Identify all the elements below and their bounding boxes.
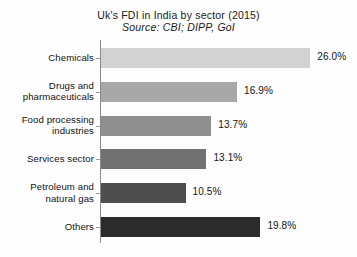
bar-value-label: 19.8%: [267, 220, 296, 231]
bar-row: Petroleum andnatural gas10.5%: [0, 177, 357, 211]
bar-row: Others19.8%: [0, 211, 357, 245]
category-label: Drugs andpharmaceuticals: [0, 80, 94, 103]
category-label-line: natural gas: [0, 193, 94, 204]
chart-title: Uk's FDI in India by sector (2015): [0, 9, 357, 21]
category-label-line: Petroleum and: [0, 181, 94, 192]
category-label: Services sector: [0, 153, 94, 164]
category-label: Chemicals: [0, 52, 94, 63]
bar-row: Services sector13.1%: [0, 143, 357, 177]
category-label-line: pharmaceuticals: [0, 91, 94, 102]
category-label-line: Drugs and: [0, 80, 94, 91]
category-label-line: industries: [0, 125, 94, 136]
category-label-line: Chemicals: [0, 52, 94, 63]
bar: [101, 116, 211, 136]
bar-row: Food processingindustries13.7%: [0, 110, 357, 144]
bar: [101, 217, 260, 237]
axis-tick-mark: [96, 58, 100, 59]
bar-value-label: 26.0%: [317, 51, 346, 62]
category-label: Others: [0, 221, 94, 232]
category-label-line: Others: [0, 221, 94, 232]
bar: [101, 149, 206, 169]
bar-value-label: 13.7%: [218, 119, 247, 130]
bar: [101, 183, 186, 203]
plot-area: Chemicals26.0%Drugs andpharmaceuticals16…: [0, 38, 357, 250]
axis-tick-mark: [96, 193, 100, 194]
bar-row: Chemicals26.0%: [0, 42, 357, 76]
category-label-line: Services sector: [0, 153, 94, 164]
bar-value-label: 16.9%: [244, 85, 273, 96]
chart-source-subtitle: Source: CBI; DIPP, GoI: [0, 21, 357, 33]
category-label-line: Food processing: [0, 114, 94, 125]
category-label: Petroleum andnatural gas: [0, 181, 94, 204]
axis-tick-mark: [96, 92, 100, 93]
bar-value-label: 13.1%: [213, 152, 242, 163]
bar-chart-figure: Uk's FDI in India by sector (2015) Sourc…: [0, 0, 357, 257]
axis-tick-mark: [96, 159, 100, 160]
bar-row: Drugs andpharmaceuticals16.9%: [0, 76, 357, 110]
bar-value-label: 10.5%: [193, 186, 222, 197]
category-label: Food processingindustries: [0, 114, 94, 137]
axis-tick-mark: [96, 126, 100, 127]
bar: [101, 48, 310, 68]
axis-tick-mark: [96, 227, 100, 228]
bar: [101, 82, 237, 102]
